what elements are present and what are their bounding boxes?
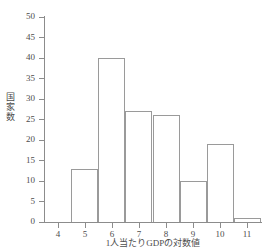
histogram-bar — [71, 169, 98, 222]
y-axis-tick-label: 5 — [0, 197, 35, 206]
histogram-bar — [180, 181, 207, 222]
x-axis-tick — [193, 223, 194, 228]
x-axis-tick — [220, 223, 221, 228]
x-axis-tick — [112, 223, 113, 228]
x-axis-tick — [247, 223, 248, 228]
y-axis-tick-label: 35 — [0, 74, 35, 83]
x-axis-tick — [58, 223, 59, 228]
y-axis-tick — [39, 119, 44, 120]
histogram-bar — [153, 115, 180, 222]
y-axis-tick-label: 20 — [0, 135, 35, 144]
x-axis-tick — [166, 223, 167, 228]
y-axis-tick — [39, 222, 44, 223]
y-axis-tick — [39, 99, 44, 100]
histogram-bar — [207, 144, 234, 222]
histogram-bar — [125, 111, 152, 222]
x-axis-title: 1人当たりGDPの対数値 — [44, 238, 262, 249]
y-axis-tick-label: 15 — [0, 156, 35, 165]
y-axis-tick — [39, 78, 44, 79]
y-axis-tick-label: 10 — [0, 176, 35, 185]
y-axis-tick — [39, 37, 44, 38]
x-axis-line — [44, 222, 262, 223]
y-axis-tick-label: 40 — [0, 53, 35, 62]
y-axis-tick-label: 45 — [0, 33, 35, 42]
y-axis-tick-label: 0 — [0, 217, 35, 226]
y-axis-tick — [39, 140, 44, 141]
y-axis-tick — [39, 160, 44, 161]
y-axis-tick-label: 25 — [0, 115, 35, 124]
x-axis-tick — [139, 223, 140, 228]
y-axis-tick — [39, 58, 44, 59]
y-axis-tick — [39, 17, 44, 18]
histogram-bar — [234, 218, 261, 222]
y-axis-tick-label: 50 — [0, 12, 35, 21]
histogram-bar — [98, 58, 125, 222]
histogram-chart: 国家数 05101520253035404550 4567891011 1人当た… — [0, 0, 264, 251]
y-axis-tick-label: 30 — [0, 94, 35, 103]
y-axis-tick — [39, 181, 44, 182]
x-axis-tick — [85, 223, 86, 228]
y-axis-line — [44, 16, 45, 223]
y-axis-tick — [39, 201, 44, 202]
